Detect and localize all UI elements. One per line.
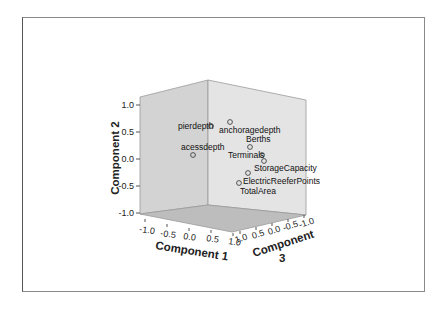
point-label: ElectricReeferPoints: [243, 176, 320, 186]
y-tick: -1.0: [118, 208, 134, 218]
z-tick: 1.0: [234, 232, 249, 245]
point-label: StorageCapacity: [254, 163, 318, 173]
x-tick: 0.5: [206, 233, 220, 245]
z-axis-title-line2: 3: [279, 252, 285, 264]
x-tick: -0.5: [160, 228, 177, 240]
z-tick: 0.5: [251, 228, 266, 241]
z-tick: 0.0: [267, 224, 282, 237]
y-axis: 1.0 0.5 0.0 -0.5 -1.0 Component 2: [109, 100, 140, 218]
y-axis-title: Component 2: [109, 121, 121, 194]
point-label: TotalArea: [240, 186, 276, 196]
x-axis-title: Component 1: [155, 239, 230, 262]
y-tick: 0.5: [121, 127, 134, 137]
x-tick: -1.0: [139, 224, 156, 236]
chart-3d-scatter: 1.0 0.5 0.0 -0.5 -1.0 Component 2 -1.0 -…: [0, 0, 446, 313]
y-tick: 0.0: [121, 154, 134, 164]
point-label: Berths: [246, 134, 271, 144]
point-label: acessdepth: [181, 142, 225, 152]
y-tick: 1.0: [121, 100, 134, 110]
point-label: Terminals: [228, 150, 264, 160]
z-tick: -1.0: [298, 216, 316, 230]
x-tick: 0.0: [183, 231, 197, 243]
point-label: pierdepth: [178, 121, 214, 131]
